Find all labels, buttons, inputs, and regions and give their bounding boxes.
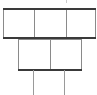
stem-right <box>64 70 65 95</box>
middle-row-bottom-edge <box>18 69 82 71</box>
top-tick <box>66 0 67 3</box>
top-cell-2 <box>34 8 67 39</box>
top-row-top-edge <box>3 8 96 10</box>
stem-left <box>33 70 34 95</box>
top-cell-1 <box>3 8 35 39</box>
middle-cell-1 <box>18 39 51 70</box>
top-cell-3 <box>66 8 96 39</box>
middle-cell-2 <box>50 39 82 70</box>
